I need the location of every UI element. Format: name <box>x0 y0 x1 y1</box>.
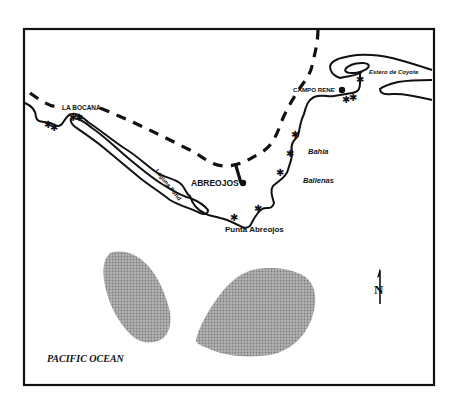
label-campo-rene: CAMPO RENE <box>293 86 335 93</box>
laguna-pond-outline <box>71 118 208 214</box>
shaded-area-west <box>103 251 170 342</box>
label-punta-abreojos: Punta Abreojos <box>225 225 284 234</box>
estero-de-coyote-spit <box>380 80 432 100</box>
north-arrow-icon: N <box>374 268 384 304</box>
shaded-area-east <box>196 268 315 356</box>
star-icon: ✱ <box>291 129 299 140</box>
label-abreojos: ABREOJOS <box>191 178 239 188</box>
star-icon: ✱ <box>276 167 284 178</box>
star-icon: ✱ <box>286 148 294 159</box>
label-estero-de-coyote: Estero de Coyote <box>369 69 419 75</box>
label-pacific-ocean: PACIFIC OCEAN <box>47 353 125 364</box>
label-laguna-pond: Laguna Pond <box>154 168 182 202</box>
map-canvas: ✱ ✱ ✱ ✱ ✱ ✱ ✱ ✱ ✱ ✱ ✱ ✱ LA BOCANA Laguna… <box>0 0 456 406</box>
town-dot-campo-rene <box>339 87 345 93</box>
label-ballenas: Ballenas <box>303 176 334 185</box>
star-icon: ✱ <box>230 212 238 223</box>
town-dot-abreojos <box>240 180 246 186</box>
road-dashed <box>30 29 318 166</box>
star-icon: ✱ <box>75 112 83 123</box>
star-icon: ✱ <box>254 203 262 214</box>
north-label: N <box>374 282 384 297</box>
estero-de-coyote-island <box>344 61 369 75</box>
star-icon: ✱ <box>50 122 58 133</box>
label-la-bocana: LA BOCANA <box>62 104 101 111</box>
label-bahia: Bahia <box>308 147 328 156</box>
star-icon: ✱ <box>349 92 357 103</box>
star-icon: ✱ <box>356 74 364 85</box>
